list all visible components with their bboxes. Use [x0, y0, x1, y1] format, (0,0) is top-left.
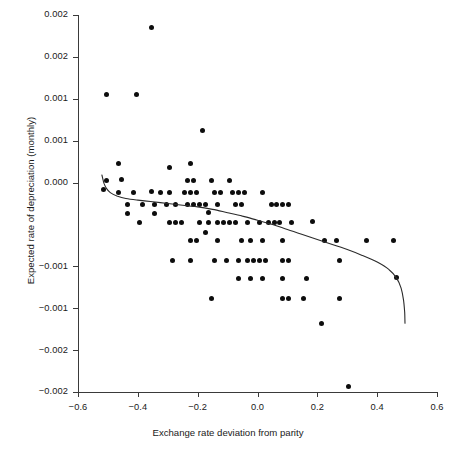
y-tick: [73, 183, 78, 184]
scatter-point: [152, 202, 157, 207]
scatter-point: [173, 220, 178, 225]
scatter-point: [274, 202, 279, 207]
scatter-point: [233, 202, 238, 207]
scatter-point: [239, 238, 244, 243]
scatter-point: [182, 190, 187, 195]
scatter-point: [149, 25, 154, 30]
scatter-point: [310, 219, 315, 224]
scatter-point: [260, 190, 265, 195]
y-tick: [73, 99, 78, 100]
scatter-point: [227, 220, 232, 225]
scatter-point: [272, 220, 277, 225]
scatter-point: [277, 220, 282, 225]
scatter-point: [301, 296, 306, 301]
scatter-point: [191, 178, 196, 183]
scatter-point: [286, 202, 291, 207]
scatter-point: [322, 238, 327, 243]
scatter-point: [236, 276, 241, 281]
scatter-point: [260, 276, 265, 281]
scatter-point: [218, 190, 223, 195]
scatter-point: [224, 258, 229, 263]
scatter-point: [104, 92, 109, 97]
scatter-point: [212, 190, 217, 195]
y-tick: [73, 57, 78, 58]
scatter-point: [212, 258, 217, 263]
y-tick: [73, 15, 78, 16]
x-tick-label: 0.4: [357, 403, 397, 412]
scatter-point: [394, 275, 399, 280]
scatter-point: [125, 202, 130, 207]
y-tick: [73, 350, 78, 351]
scatter-point: [280, 296, 285, 301]
scatter-point: [116, 190, 121, 195]
y-tick: [73, 308, 78, 309]
x-tick-label: −0.2: [178, 403, 218, 412]
y-tick: [73, 141, 78, 142]
scatter-point: [257, 220, 262, 225]
scatter-point: [185, 178, 190, 183]
scatter-point: [239, 202, 244, 207]
scatter-point: [280, 202, 285, 207]
y-axis-line: [78, 15, 79, 392]
scatter-point: [245, 258, 250, 263]
scatter-point: [188, 238, 193, 243]
scatter-point: [167, 190, 172, 195]
scatter-point: [203, 230, 208, 235]
scatter-point: [188, 190, 193, 195]
scatter-point: [206, 220, 211, 225]
scatter-point: [188, 258, 193, 263]
scatter-point: [173, 202, 178, 207]
scatter-point: [334, 238, 339, 243]
x-tick: [138, 392, 139, 397]
y-axis-title: Expected rate of depreciation (monthly): [25, 61, 36, 341]
scatter-point: [200, 128, 205, 133]
scatter-point: [215, 202, 220, 207]
scatter-point: [215, 238, 220, 243]
scatter-point: [164, 202, 169, 207]
scatter-point: [233, 220, 238, 225]
scatter-point: [116, 161, 121, 166]
scatter-point: [119, 177, 124, 182]
scatter-point: [185, 202, 190, 207]
scatter-point: [152, 211, 157, 216]
scatter-point: [304, 276, 309, 281]
scatter-point: [230, 190, 235, 195]
scatter-point: [158, 190, 163, 195]
scatter-point: [269, 202, 274, 207]
scatter-point: [248, 238, 253, 243]
scatter-point: [188, 161, 193, 166]
scatter-point: [346, 384, 351, 389]
scatter-plot-figure: 0.0020.0020.0010.0010.000−0.001−0.001−0.…: [0, 0, 456, 454]
x-tick-label: 0.2: [297, 403, 337, 412]
scatter-point: [197, 220, 202, 225]
scatter-point: [140, 202, 145, 207]
scatter-point: [242, 190, 247, 195]
scatter-point: [286, 258, 291, 263]
x-tick-label: −0.6: [58, 403, 98, 412]
scatter-point: [125, 211, 130, 216]
y-tick: [73, 266, 78, 267]
x-tick: [377, 392, 378, 397]
scatter-point: [101, 187, 106, 192]
scatter-point: [266, 220, 271, 225]
x-axis-title: Exchange rate deviation from parity: [0, 427, 456, 438]
scatter-point: [337, 296, 342, 301]
scatter-point: [194, 190, 199, 195]
x-tick: [437, 392, 438, 397]
scatter-point: [289, 220, 294, 225]
scatter-point: [236, 190, 241, 195]
y-tick-label: 0.002: [22, 10, 68, 19]
x-tick: [78, 392, 79, 397]
y-tick-label: −0.002: [22, 346, 68, 355]
scatter-point: [149, 189, 154, 194]
scatter-point: [137, 220, 142, 225]
x-tick-label: −0.4: [118, 403, 158, 412]
scatter-point: [263, 258, 268, 263]
scatter-point: [227, 178, 232, 183]
scatter-point: [203, 202, 208, 207]
scatter-point: [179, 220, 184, 225]
scatter-point: [170, 258, 175, 263]
scatter-point: [131, 190, 136, 195]
scatter-point: [215, 220, 220, 225]
scatter-point: [206, 210, 211, 215]
